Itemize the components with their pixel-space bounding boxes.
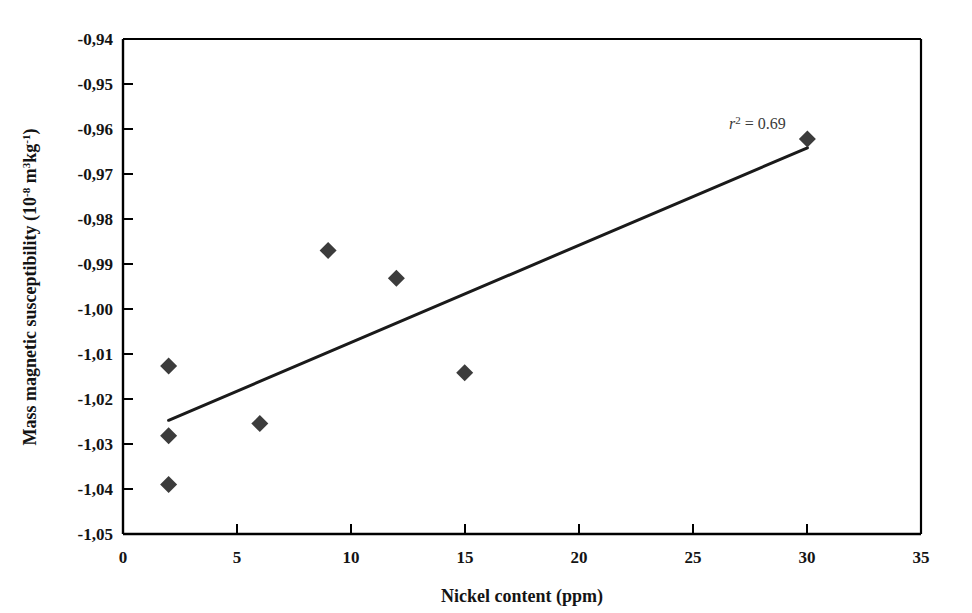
y-tick-label-2: -0,96	[78, 120, 113, 139]
r-squared-suffix: = 0.69	[741, 115, 786, 132]
r-squared-annotation: r2 = 0.69	[729, 114, 786, 132]
plot-frame	[123, 39, 921, 534]
y-tick-label-6: -1,00	[78, 300, 113, 319]
y-tick-label-9: -1,03	[78, 435, 113, 454]
scatter-plot-svg: -0,94 -0,95 -0,96 -0,97 -0,98 -0,99 -1,0…	[0, 0, 972, 613]
y-tick-label-3: -0,97	[78, 165, 114, 184]
data-point-marker	[320, 242, 337, 259]
x-tick-label-5: 25	[685, 548, 702, 567]
x-tick-label-7: 35	[913, 548, 930, 567]
y-tick-label-1: -0,95	[78, 75, 113, 94]
x-tick-label-4: 20	[571, 548, 588, 567]
data-point-marker	[160, 427, 177, 444]
y-axis-title-mid: m	[20, 168, 40, 188]
data-point-marker	[799, 131, 816, 148]
x-axis-title: Nickel content (ppm)	[441, 586, 603, 607]
data-point-marker	[160, 358, 177, 375]
y-axis-ticks	[123, 39, 133, 534]
y-axis-title-main: Mass magnetic susceptibility (10	[20, 197, 41, 445]
x-tick-label-1: 5	[233, 548, 242, 567]
x-tick-label-2: 10	[343, 548, 360, 567]
trendline	[169, 148, 808, 421]
x-axis-ticks	[123, 524, 921, 534]
y-tick-label-10: -1,04	[78, 480, 114, 499]
y-tick-label-11: -1,05	[78, 525, 113, 544]
y-tick-label-0: -0,94	[78, 30, 114, 49]
y-tick-label-8: -1,02	[78, 390, 113, 409]
data-point-marker	[456, 364, 473, 381]
data-point-marker	[160, 476, 177, 493]
y-axis-title-close: )	[20, 129, 41, 135]
chart-figure: -0,94 -0,95 -0,96 -0,97 -0,98 -0,99 -1,0…	[0, 0, 972, 613]
x-tick-label-0: 0	[119, 548, 128, 567]
y-axis-title-unit: kg	[20, 144, 40, 163]
y-tick-label-5: -0,99	[78, 255, 113, 274]
y-tick-label-7: -1,01	[78, 345, 113, 364]
x-axis-tick-labels: 0 5 10 15 20 25 30 35	[119, 548, 930, 567]
y-axis-tick-labels: -0,94 -0,95 -0,96 -0,97 -0,98 -0,99 -1,0…	[78, 30, 114, 544]
x-tick-label-3: 15	[457, 548, 474, 567]
y-axis-title-exp3: -1	[20, 135, 32, 144]
y-axis-title: Mass magnetic susceptibility (10-8 m3kg-…	[20, 129, 41, 446]
x-tick-label-6: 30	[799, 548, 816, 567]
data-point-marker	[388, 270, 405, 287]
data-point-marker	[251, 415, 268, 432]
y-tick-label-4: -0,98	[78, 210, 113, 229]
